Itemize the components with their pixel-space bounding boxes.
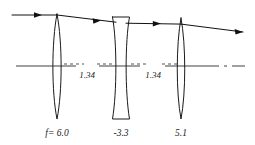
ray-segment-outgoing: [181, 24, 243, 32]
ray-arrow-3-icon: [153, 21, 161, 27]
lens-2-focal-label: -3.3: [113, 128, 128, 138]
gap-1-label: 1.34: [79, 70, 95, 80]
lens-3-focal-label: 5.1: [175, 128, 187, 138]
lens-1-focal-label: f= 6.0: [45, 128, 69, 138]
optics-canvas: 1.34 1.34 f= 6.0 -3.3 5.1: [0, 0, 255, 145]
lens-2-outline: [113, 17, 130, 119]
ray-arrow-2-icon: [93, 18, 101, 24]
lens-1-outline: [53, 14, 61, 119]
ray-arrow-1-icon: [34, 12, 42, 18]
ray-segment-after-lens-1: [57, 15, 116, 22]
lens-3-biconvex: [177, 18, 185, 119]
lens-1-biconvex: [53, 14, 61, 119]
lens-2-biconcave: [113, 17, 130, 119]
optical-ray-diagram: 1.34 1.34 f= 6.0 -3.3 5.1: [0, 0, 255, 145]
ray-arrow-4-icon: [235, 29, 243, 35]
lens-3-outline: [177, 18, 185, 119]
gap-2-label: 1.34: [145, 70, 161, 80]
